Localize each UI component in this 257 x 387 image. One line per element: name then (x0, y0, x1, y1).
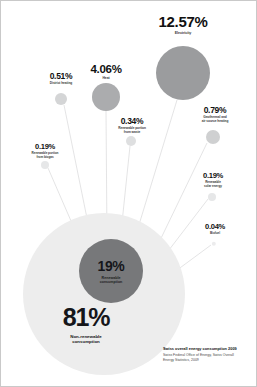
label-solar: 0.19%Renewable solar energy (203, 172, 223, 189)
label-waste: 0.34%Renewable portion from waste (118, 117, 146, 135)
bubble-district-heating (55, 93, 67, 105)
credit-source: Swiss Federal Office of Energy, Swiss Ov… (163, 353, 249, 362)
value-heat: 4.06% (90, 63, 121, 75)
renewable-core-value: 19% (98, 258, 125, 274)
non-renewable-core-name: Non-renewable consumption (63, 334, 109, 345)
label-geothermal: 0.79%Geothermal and air source heating (202, 106, 229, 124)
value-biofuel: 0.04% (205, 223, 225, 231)
value-geothermal: 0.79% (202, 106, 229, 115)
value-electricity: 12.57% (158, 14, 207, 30)
label-district-heating: 0.51%District heating (50, 72, 73, 86)
renewable-core-name: Renewable consumption (98, 276, 125, 285)
label-biofuel: 0.04%Biofuel (205, 223, 225, 236)
label-biogas: 0.19%Renewable portion from biogas (32, 143, 59, 160)
label-electricity: 12.57%Electricity (158, 14, 207, 35)
name-biofuel: Biofuel (205, 232, 225, 236)
non-renewable-core-label: 81% Non-renewable consumption (63, 303, 109, 345)
value-solar: 0.19% (203, 172, 223, 180)
credit-block: Swiss overall energy consumption 2009 Sw… (163, 347, 249, 362)
name-waste: Renewable portion from waste (118, 127, 146, 134)
value-waste: 0.34% (118, 117, 146, 126)
non-renewable-core-value: 81% (63, 303, 109, 332)
bubble-electricity (156, 46, 210, 100)
infographic-page: 12.57%Electricity4.06%Heat0.79%Geotherma… (0, 0, 257, 387)
bubble-biogas (41, 161, 49, 169)
name-geothermal: Geothermal and air source heating (202, 116, 229, 123)
bubble-geothermal (206, 130, 220, 144)
name-district-heating: District heating (50, 82, 73, 86)
name-biogas: Renewable portion from biogas (32, 152, 59, 159)
credit-title: Swiss overall energy consumption 2009 (163, 347, 249, 352)
bubble-heat (92, 83, 120, 111)
renewable-core-label: 19% Renewable consumption (98, 258, 125, 285)
value-district-heating: 0.51% (50, 72, 73, 81)
name-solar: Renewable solar energy (203, 181, 223, 188)
value-biogas: 0.19% (32, 143, 59, 151)
name-heat: Heat (90, 77, 121, 81)
name-electricity: Electricity (158, 31, 207, 35)
label-heat: 4.06%Heat (90, 63, 121, 80)
bubble-solar (208, 193, 216, 201)
bubble-waste (126, 136, 136, 146)
